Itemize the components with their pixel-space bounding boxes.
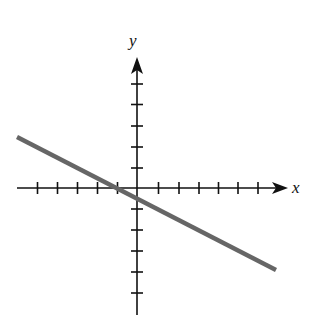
y-axis: y: [127, 31, 143, 315]
plotted-line: [17, 137, 276, 270]
y-axis-label: y: [127, 31, 137, 50]
x-axis: x: [17, 178, 300, 197]
coordinate-plane: x y: [0, 0, 316, 335]
x-axis-label: x: [291, 178, 300, 197]
